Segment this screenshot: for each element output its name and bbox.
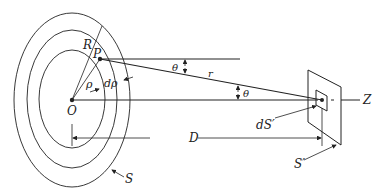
label-R: R — [82, 38, 92, 52]
dS-leader — [275, 106, 316, 118]
ray-r — [100, 59, 322, 100]
label-D: D — [188, 131, 199, 145]
label-Z: Z — [362, 93, 372, 107]
label-O: O — [67, 104, 77, 118]
label-S-prime: S′ — [294, 157, 305, 171]
screen-plane — [308, 70, 341, 145]
diagram-canvas: R P ρ dρ O θ r θ Z D dS′ S′ S — [0, 0, 381, 196]
label-dS-prime: dS′ — [256, 118, 275, 132]
label-theta-top: θ — [172, 62, 178, 73]
label-theta-axis: θ — [243, 88, 249, 99]
S-prime-leader — [304, 145, 336, 160]
target-point — [320, 98, 324, 102]
label-S: S — [125, 172, 133, 186]
label-P: P — [92, 47, 102, 61]
S-leader — [112, 170, 124, 177]
label-rho: ρ — [85, 78, 93, 91]
label-drho: dρ — [104, 77, 118, 90]
label-r: r — [208, 68, 214, 79]
